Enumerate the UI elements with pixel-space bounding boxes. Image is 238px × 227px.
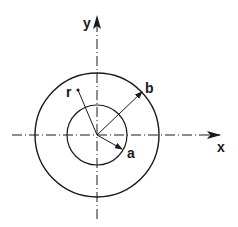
a-radius-arrow: [97, 135, 122, 149]
r-radius-line: [78, 90, 97, 135]
b-radius-arrow: [97, 92, 142, 135]
x-axis-label: x: [217, 139, 225, 155]
r-point-dot: [76, 88, 79, 91]
concentric-circles-diagram: y x r a b: [0, 0, 238, 227]
r-label: r: [66, 84, 72, 100]
a-label: a: [127, 145, 135, 161]
y-axis-label: y: [83, 15, 91, 31]
b-label: b: [145, 80, 154, 96]
